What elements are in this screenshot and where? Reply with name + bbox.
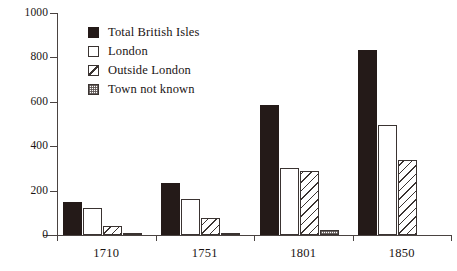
bar bbox=[63, 202, 82, 235]
x-axis-line bbox=[43, 235, 452, 236]
y-axis-tick-label: 0 bbox=[4, 229, 48, 241]
bar bbox=[181, 199, 200, 235]
bar bbox=[280, 168, 299, 235]
y-axis-tick-label: 1000 bbox=[4, 7, 48, 19]
legend-label-total-british-isles: Total British Isles bbox=[108, 26, 200, 39]
legend-swatch-total-british-isles-icon bbox=[88, 27, 99, 38]
x-axis-category-label: 1710 bbox=[57, 246, 156, 260]
y-axis-tick bbox=[50, 191, 57, 192]
bar bbox=[398, 160, 417, 235]
y-axis-tick-label-wrap: 200 bbox=[0, 185, 48, 197]
y-axis-tick bbox=[50, 235, 57, 236]
bar bbox=[103, 226, 122, 235]
legend-label-town-not-known: Town not known bbox=[108, 83, 195, 96]
legend-label-london: London bbox=[108, 45, 148, 58]
bar bbox=[358, 50, 377, 235]
chart-legend: Total British Isles London Outside Londo… bbox=[88, 23, 200, 99]
x-axis-category-label: 1801 bbox=[254, 246, 353, 260]
legend-swatch-london-icon bbox=[88, 46, 99, 57]
legend-item-town-not-known: Town not known bbox=[88, 80, 200, 99]
bar bbox=[161, 183, 180, 235]
bar bbox=[320, 230, 339, 235]
y-axis-tick-label-wrap: 400 bbox=[0, 140, 48, 152]
y-axis-tick-label: 200 bbox=[4, 185, 48, 197]
y-axis-tick bbox=[50, 13, 57, 14]
legend-swatch-town-not-known-icon bbox=[88, 84, 99, 95]
bar bbox=[221, 233, 240, 235]
legend-item-london: London bbox=[88, 42, 200, 61]
y-axis-tick-label-wrap: 0 bbox=[0, 229, 48, 241]
bar bbox=[260, 105, 279, 235]
y-axis-tick-label-wrap: 600 bbox=[0, 96, 48, 108]
y-axis-tick-label: 400 bbox=[4, 140, 48, 152]
legend-item-outside-london: Outside London bbox=[88, 61, 200, 80]
bar bbox=[300, 171, 319, 235]
y-axis-tick-label: 800 bbox=[4, 51, 48, 63]
x-axis-tick bbox=[57, 236, 58, 241]
legend-item-total-british-isles: Total British Isles bbox=[88, 23, 200, 42]
y-axis-tick-label-wrap: 800 bbox=[0, 51, 48, 63]
legend-label-outside-london: Outside London bbox=[108, 64, 191, 77]
x-axis-tick bbox=[353, 236, 354, 241]
x-axis-category-label: 1850 bbox=[353, 246, 452, 260]
y-axis-tick bbox=[50, 102, 57, 103]
y-axis-tick-label: 600 bbox=[4, 96, 48, 108]
bar bbox=[201, 218, 220, 235]
x-axis-tick bbox=[254, 236, 255, 241]
bar bbox=[378, 125, 397, 235]
x-axis-category-label: 1751 bbox=[156, 246, 255, 260]
y-axis-tick bbox=[50, 146, 57, 147]
y-axis-tick-label-wrap: 1000 bbox=[0, 7, 48, 19]
x-axis-tick bbox=[156, 236, 157, 241]
legend-swatch-outside-london-icon bbox=[88, 65, 99, 76]
x-axis-tick bbox=[451, 236, 452, 241]
bar bbox=[123, 233, 142, 235]
y-axis-tick bbox=[50, 57, 57, 58]
bar bbox=[83, 208, 102, 235]
bar-chart: 02004006008001000 1710175118011850 Total… bbox=[0, 0, 457, 271]
